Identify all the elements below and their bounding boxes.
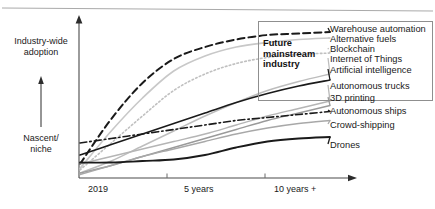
chart-figure: Industry-wide adoption Nascent/ niche 20… [0, 0, 435, 209]
top-rule [2, 8, 433, 11]
x-axis-arrowhead [348, 175, 357, 182]
x-tick-label-2019: 2019 [88, 184, 108, 195]
legend-label-drones: Drones [330, 140, 360, 151]
legend-label-internet-of-things: Internet of Things [330, 54, 402, 65]
legend-label-crowd-shipping: Crowd-shipping [330, 120, 395, 131]
series-line-artificial-intelligence [80, 80, 330, 155]
adoption-direction-arrowhead [38, 76, 44, 84]
legend-label-autonomous-trucks: Autonomous trucks [330, 81, 410, 92]
legend-label-blockchain: Blockchain [330, 44, 375, 55]
legend-label-warehouse-automation: Warehouse automation [330, 24, 426, 35]
legend-label-artificial-intelligence: Artificial intelligence [330, 65, 412, 76]
y-axis-high-label: Industry-wide adoption [2, 36, 80, 58]
series-line-blockchain [80, 53, 330, 170]
y-axis-arrowhead [76, 15, 83, 24]
y-axis-low-label: Nascent/ niche [6, 133, 76, 155]
legend-label-autonomous-ships: Autonomous ships [330, 106, 407, 117]
future-mainstream-annotation: Future mainstream industry [263, 38, 325, 70]
legend-label-alternative-fuels: Alternative fuels [330, 34, 396, 45]
legend-label-3d-printing: 3D printing [330, 93, 375, 104]
x-tick-label-5-years: 5 years [184, 184, 214, 195]
x-tick-label-10-years: 10 years + [274, 184, 316, 195]
series-line-crowd-shipping [80, 121, 330, 175]
